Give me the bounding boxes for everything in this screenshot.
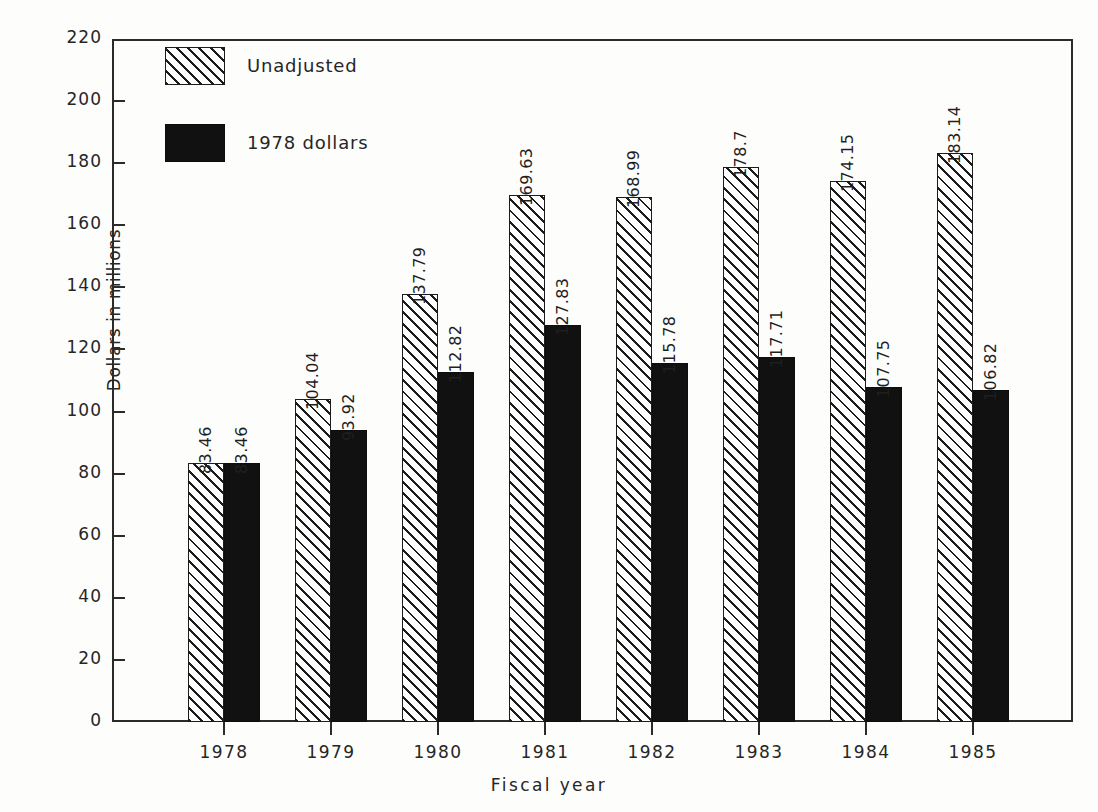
legend-label: Unadjusted bbox=[247, 55, 357, 76]
y-tick-label: 0 bbox=[30, 710, 102, 730]
y-tick-label: 180 bbox=[30, 151, 102, 171]
bar-value-label: 183.14 bbox=[945, 106, 964, 164]
bar-value-label: 117.71 bbox=[767, 309, 786, 367]
bar-unadjusted-1981 bbox=[509, 195, 545, 722]
y-tick-label: 160 bbox=[30, 213, 102, 233]
y-tick-label: 200 bbox=[30, 89, 102, 109]
x-tick-mark bbox=[437, 722, 439, 735]
x-tick-mark bbox=[651, 722, 653, 735]
legend-label: 1978 dollars bbox=[247, 132, 368, 153]
x-tick-mark bbox=[865, 722, 867, 735]
bar-unadjusted-1985 bbox=[937, 153, 973, 722]
y-tick-label: 20 bbox=[30, 648, 102, 668]
bar-adjusted-1980 bbox=[438, 372, 474, 722]
bar-unadjusted-1982 bbox=[616, 197, 652, 722]
bar-adjusted-1978 bbox=[224, 463, 260, 722]
y-tick-label: 120 bbox=[30, 337, 102, 357]
x-tick-label-1984: 1984 bbox=[806, 742, 926, 762]
bar-value-label: 106.82 bbox=[981, 343, 1000, 401]
legend-swatch-adjusted bbox=[165, 124, 225, 162]
y-tick-label: 40 bbox=[30, 586, 102, 606]
bar-value-label: 93.92 bbox=[339, 394, 358, 442]
bar-value-label: 127.83 bbox=[553, 278, 572, 336]
bar-chart: Dollars in millions 02040608010012014016… bbox=[0, 0, 1098, 812]
bar-unadjusted-1984 bbox=[830, 181, 866, 722]
x-tick-label-1979: 1979 bbox=[271, 742, 391, 762]
bar-value-label: 112.82 bbox=[446, 324, 465, 382]
y-tick-label: 140 bbox=[30, 275, 102, 295]
bar-adjusted-1981 bbox=[545, 325, 581, 722]
bar-value-label: 174.15 bbox=[838, 134, 857, 192]
y-tick-label: 220 bbox=[30, 27, 102, 47]
bar-adjusted-1984 bbox=[866, 387, 902, 722]
bar-value-label: 169.63 bbox=[517, 148, 536, 206]
bar-value-label: 83.46 bbox=[196, 426, 215, 474]
x-tick-label-1978: 1978 bbox=[164, 742, 284, 762]
bar-adjusted-1985 bbox=[973, 390, 1009, 722]
bar-value-label: 83.46 bbox=[232, 426, 251, 474]
bar-value-label: 178.7 bbox=[731, 130, 750, 178]
y-tick-label: 100 bbox=[30, 400, 102, 420]
bar-value-label: 137.79 bbox=[410, 247, 429, 305]
bar-unadjusted-1980 bbox=[402, 294, 438, 722]
bar-adjusted-1982 bbox=[652, 363, 688, 722]
x-tick-label-1983: 1983 bbox=[699, 742, 819, 762]
bar-value-label: 115.78 bbox=[660, 315, 679, 373]
bar-value-label: 104.04 bbox=[303, 352, 322, 410]
x-tick-mark bbox=[223, 722, 225, 735]
legend-item: Unadjusted bbox=[165, 47, 465, 85]
x-tick-mark bbox=[544, 722, 546, 735]
bar-adjusted-1983 bbox=[759, 357, 795, 722]
bar-value-label: 107.75 bbox=[874, 340, 893, 398]
y-tick-label: 80 bbox=[30, 462, 102, 482]
bar-unadjusted-1978 bbox=[188, 463, 224, 722]
x-tick-mark bbox=[330, 722, 332, 735]
x-tick-label-1980: 1980 bbox=[378, 742, 498, 762]
bar-value-label: 168.99 bbox=[624, 150, 643, 208]
x-tick-label-1981: 1981 bbox=[485, 742, 605, 762]
y-tick-label: 60 bbox=[30, 524, 102, 544]
bar-adjusted-1979 bbox=[331, 430, 367, 722]
x-tick-label-1985: 1985 bbox=[913, 742, 1033, 762]
x-tick-mark bbox=[758, 722, 760, 735]
x-axis-title: Fiscal year bbox=[0, 775, 1098, 795]
x-tick-mark bbox=[972, 722, 974, 735]
bar-unadjusted-1979 bbox=[295, 399, 331, 722]
x-tick-label-1982: 1982 bbox=[592, 742, 712, 762]
bar-unadjusted-1983 bbox=[723, 167, 759, 722]
legend-swatch-unadjusted bbox=[165, 47, 225, 85]
legend-item: 1978 dollars bbox=[165, 124, 465, 162]
